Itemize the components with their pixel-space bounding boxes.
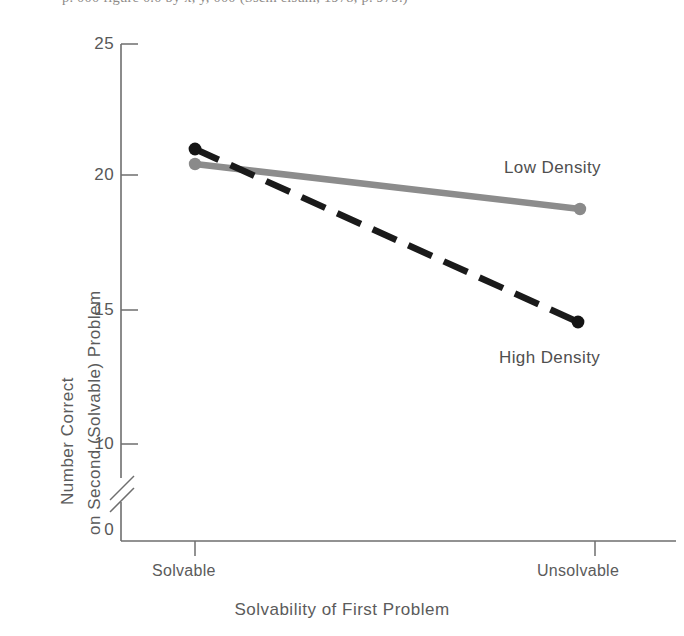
x-tick-label-unsolvable: Unsolvable xyxy=(537,562,619,580)
series-label-low-density: Low Density xyxy=(504,158,601,178)
data-point-high-density-solvable xyxy=(189,143,202,156)
data-point-high-density-unsolvable xyxy=(572,316,585,329)
line-chart-figure: 25 20 15 10 0 Solvable Unsolvable Solvab… xyxy=(0,0,684,636)
x-tick-label-solvable: Solvable xyxy=(152,562,216,580)
y-axis-title: Number Correct on Second (Solvable) Prob… xyxy=(0,0,105,560)
y-axis-break-icon xyxy=(110,476,134,512)
series-label-high-density: High Density xyxy=(499,348,600,368)
x-axis-title: Solvability of First Problem xyxy=(0,600,684,620)
data-point-low-density-solvable xyxy=(189,158,201,170)
data-point-low-density-unsolvable xyxy=(574,203,586,215)
y-axis-title-line-1: Number Correct xyxy=(58,377,78,505)
y-axis xyxy=(110,44,138,541)
x-axis xyxy=(121,541,676,556)
y-axis-title-line-2: on Second (Solvable) Problem xyxy=(85,290,105,535)
